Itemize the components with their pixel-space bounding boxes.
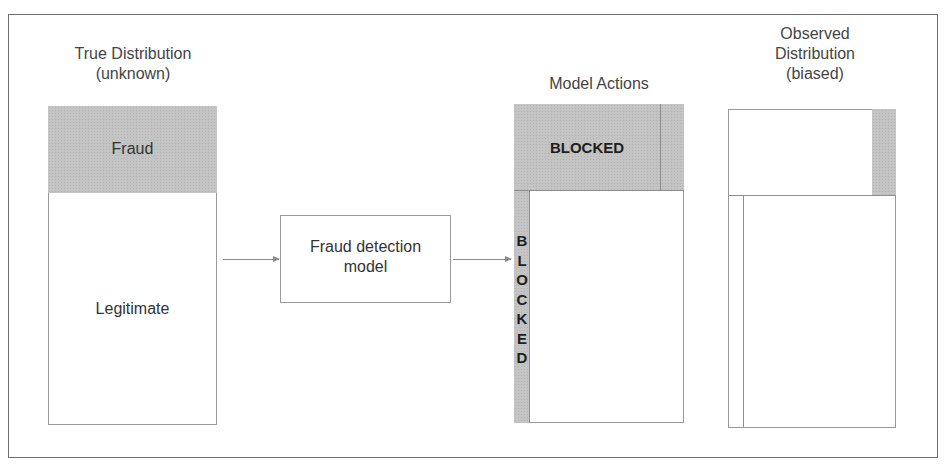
model-actions-title: Model Actions	[514, 74, 684, 94]
legitimate-label: Legitimate	[48, 300, 217, 318]
fraud-detection-model-label: Fraud detection model	[280, 237, 451, 277]
blocked-vertical-label: B L O C K E D	[514, 231, 530, 368]
observed-distribution-title: Observed Distribution (biased)	[730, 24, 900, 84]
fraud-band-bottom	[514, 190, 684, 191]
true-distribution-title-line1: True Distribution	[28, 44, 238, 64]
observed-fraud-segment	[872, 109, 896, 196]
observed-missing-divider	[743, 195, 744, 427]
model-label-line1: Fraud detection	[280, 237, 451, 257]
arrow-to-model	[223, 259, 279, 260]
model-label-line2: model	[280, 257, 451, 277]
observed-distribution-box	[728, 109, 896, 428]
true-distribution-title: True Distribution (unknown)	[28, 44, 238, 84]
missed-fraud-divider	[660, 104, 661, 191]
observed-band-bottom	[728, 195, 896, 196]
true-distribution-title-line2: (unknown)	[28, 64, 238, 84]
fraud-label: Fraud	[48, 140, 217, 158]
arrow-to-actions	[453, 259, 511, 260]
blocked-horizontal-label: BLOCKED	[514, 139, 660, 156]
